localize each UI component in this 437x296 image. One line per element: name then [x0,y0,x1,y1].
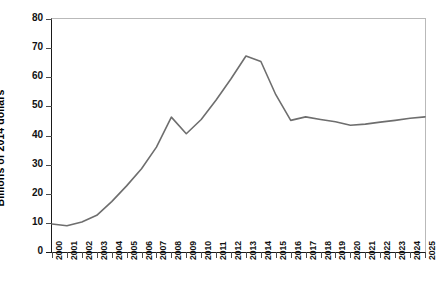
y-axis-tick-label: 10 [13,217,43,227]
x-axis-tick-label: 2002 [85,241,94,260]
x-axis-tick [127,252,128,258]
y-axis-tick-label: 60 [13,71,43,81]
x-axis-tick-label: 2019 [338,241,347,260]
x-axis-tick-label: 2021 [368,241,377,260]
y-axis-tick-label: 40 [13,130,43,140]
y-axis-tick [46,19,52,20]
x-axis-tick-label: 2016 [294,241,303,260]
x-axis-tick [246,252,247,258]
data-line-svg [52,19,425,252]
x-axis-tick-label: 2005 [130,241,139,260]
x-axis-tick-label: 2012 [234,241,243,260]
x-axis-tick [52,252,53,258]
y-axis-tick [46,194,52,195]
x-axis-tick [276,252,277,258]
plot-area [51,18,426,253]
series-line [52,56,425,226]
x-axis-tick [410,252,411,258]
x-axis-tick-label: 2015 [279,241,288,260]
x-axis-tick [67,252,68,258]
x-axis-tick [306,252,307,258]
chart-figure: Billions of 2014 dollars 010203040506070… [0,0,437,296]
x-axis-tick-label: 2020 [353,241,362,260]
y-axis-tick-label: 50 [13,100,43,110]
x-axis-tick [112,252,113,258]
x-axis-tick [425,252,426,258]
x-axis-tick-label: 2011 [219,241,228,260]
y-axis-tick [46,165,52,166]
y-axis-tick-label: 30 [13,159,43,169]
y-axis-tick [46,136,52,137]
x-axis-tick-label: 2018 [324,241,333,260]
x-axis-tick-label: 2001 [70,241,79,260]
x-axis-tick-label: 2013 [249,241,258,260]
x-axis-tick [231,252,232,258]
y-axis-tick [46,106,52,107]
x-axis-tick [82,252,83,258]
x-axis-tick-label: 2003 [100,241,109,260]
x-axis-tick-label: 2014 [264,241,273,260]
y-axis-tick-label: 70 [13,42,43,52]
y-axis-tick [46,48,52,49]
x-axis-tick-label: 2010 [204,241,213,260]
x-axis-tick-label: 2017 [309,241,318,260]
x-axis-tick-label: 2008 [174,241,183,260]
y-axis-tick-label: 20 [13,188,43,198]
y-axis-tick [46,223,52,224]
x-axis-tick [142,252,143,258]
x-axis-tick [291,252,292,258]
y-axis-tick [46,77,52,78]
x-axis-tick-label: 2022 [383,241,392,260]
x-axis-tick-label: 2000 [55,241,64,260]
x-axis-tick [261,252,262,258]
x-axis-tick-label: 2007 [159,241,168,260]
x-axis-tick [395,252,396,258]
x-axis-tick [97,252,98,258]
x-axis-tick-label: 2004 [115,241,124,260]
y-axis-tick-label: 0 [13,246,43,256]
x-axis-tick [216,252,217,258]
x-axis-tick [321,252,322,258]
x-axis-tick-label: 2006 [145,241,154,260]
x-axis-tick-label: 2023 [398,241,407,260]
x-axis-tick-label: 2009 [189,241,198,260]
x-axis-tick-label: 2024 [413,241,422,260]
x-axis-tick-label: 2025 [428,241,437,260]
y-axis-tick-label: 80 [13,13,43,23]
